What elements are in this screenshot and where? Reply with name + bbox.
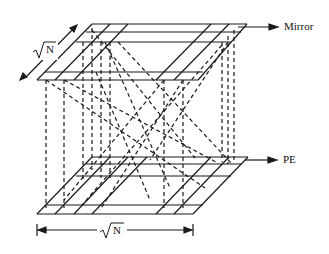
pe-plane — [37, 157, 248, 214]
mirror-pe-grid-diagram — [0, 0, 329, 254]
mirror-label: Mirror — [284, 20, 313, 32]
sqrt-n-bottom-label: N — [113, 224, 121, 236]
pe-arrow — [245, 157, 277, 163]
sqrt-n-top-label: N — [46, 43, 54, 55]
pe-label: PE — [283, 153, 296, 165]
mirror-arrow — [238, 24, 278, 30]
